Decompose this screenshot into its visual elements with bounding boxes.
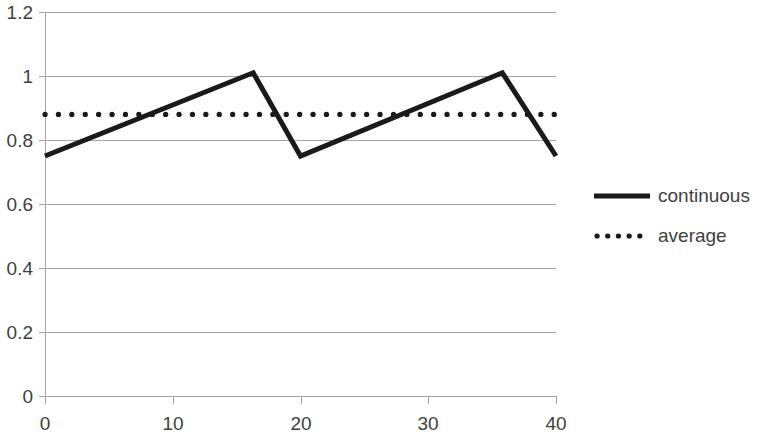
gridlines xyxy=(45,13,556,333)
y-tick-label-0.6: 0.6 xyxy=(7,194,33,215)
x-tick-label-40: 40 xyxy=(545,413,566,434)
y-axis: 1.2 1 0.8 0.6 0.4 0.2 0 xyxy=(7,2,46,407)
line-chart: 1.2 1 0.8 0.6 0.4 0.2 0 0 10 20 30 40 xyxy=(0,0,757,437)
chart-container: 1.2 1 0.8 0.6 0.4 0.2 0 0 10 20 30 40 xyxy=(0,0,757,437)
legend-label-continuous: continuous xyxy=(658,185,750,206)
y-tick-label-1.2: 1.2 xyxy=(7,2,33,23)
plot-series-group xyxy=(45,73,556,156)
y-tick-label-0.8: 0.8 xyxy=(7,130,33,151)
y-tick-label-0.2: 0.2 xyxy=(7,322,33,343)
x-tick-label-10: 10 xyxy=(162,413,183,434)
x-tick-label-30: 30 xyxy=(417,413,438,434)
legend-label-average: average xyxy=(658,225,727,246)
y-tick-label-0: 0 xyxy=(22,386,33,407)
legend: continuous average xyxy=(594,185,750,246)
x-axis: 0 10 20 30 40 xyxy=(40,396,567,434)
x-tick-label-0: 0 xyxy=(40,413,51,434)
x-tick-label-20: 20 xyxy=(290,413,311,434)
y-tick-label-1: 1 xyxy=(22,66,33,87)
y-tick-label-0.4: 0.4 xyxy=(7,258,34,279)
